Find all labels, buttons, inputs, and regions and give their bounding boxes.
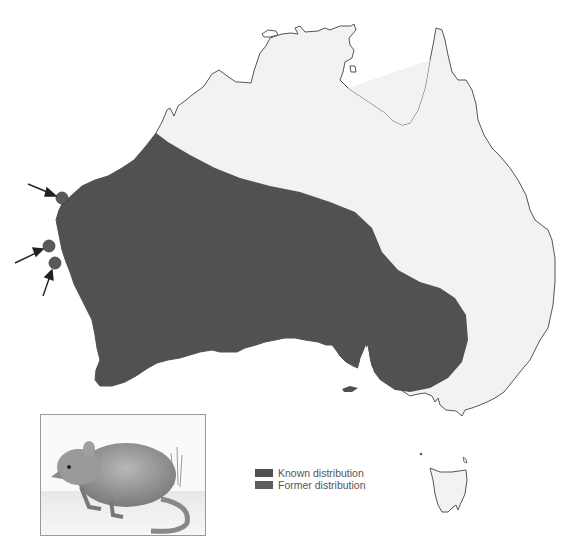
- record-site-marker-2: [43, 240, 55, 252]
- former-distribution-swatch: [255, 481, 273, 489]
- arrow-icon-2: [15, 248, 43, 263]
- king-island: [420, 453, 422, 455]
- map-legend: Known distribution Former distribution: [255, 467, 366, 491]
- arrow-icon-1: [28, 184, 56, 196]
- known-distribution-swatch: [255, 469, 273, 477]
- legend-item-known: Known distribution: [255, 467, 366, 479]
- record-site-marker-1: [56, 192, 68, 204]
- marsupial-illustration: [41, 415, 206, 536]
- melville-island: [262, 30, 278, 37]
- tasmania: [430, 468, 467, 512]
- legend-item-former: Former distribution: [255, 479, 366, 491]
- legend-label-former: Former distribution: [278, 479, 366, 491]
- kangaroo-island: [342, 386, 358, 392]
- flinders-island: [463, 457, 467, 463]
- record-site-marker-3: [49, 257, 61, 269]
- legend-label-known: Known distribution: [278, 467, 364, 479]
- animal-illustration-inset: [40, 414, 206, 536]
- groote-island: [350, 66, 356, 72]
- arrow-icon-3: [43, 270, 53, 296]
